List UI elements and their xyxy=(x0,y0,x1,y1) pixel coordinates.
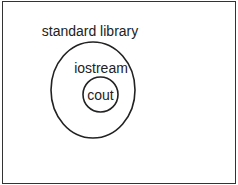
iostream-label: iostream xyxy=(74,60,128,76)
standard-library-label: standard library xyxy=(42,23,139,39)
cout-label: cout xyxy=(87,87,114,103)
nested-sets-diagram: standard library iostream cout xyxy=(0,0,238,185)
